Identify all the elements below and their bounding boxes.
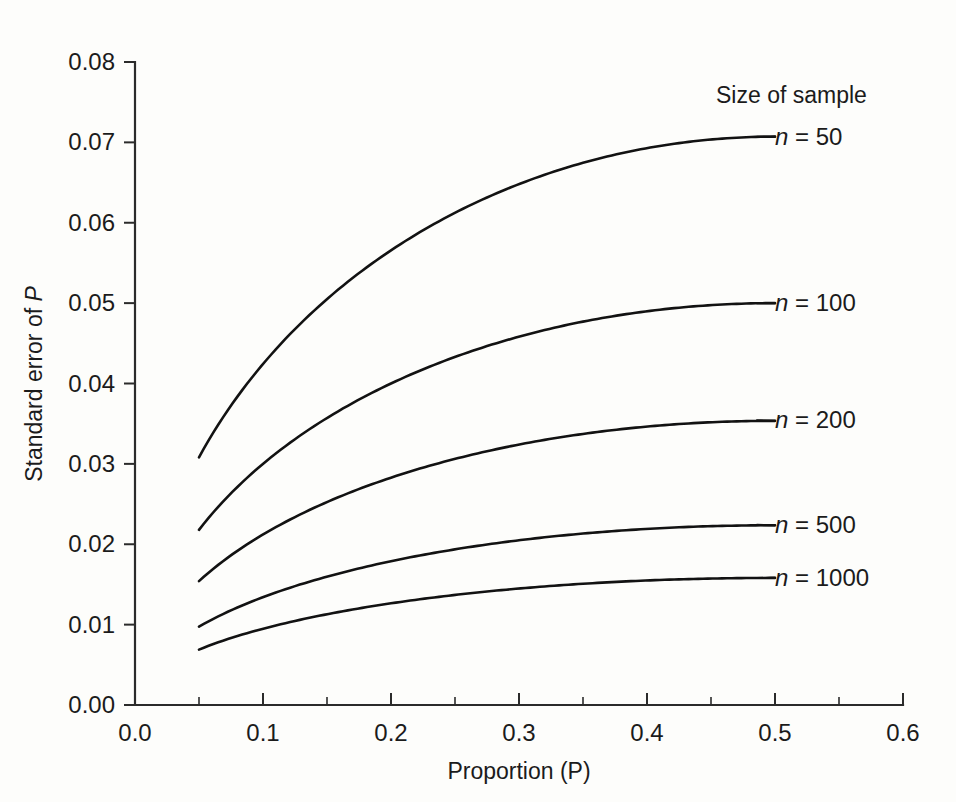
chart-page: 0.000.010.020.030.040.050.060.070.08 0.0… [0,0,956,802]
y-axis-title-symbol: P [21,286,47,302]
x-tick-label: 0.3 [502,719,535,746]
legend-title: Size of sample [716,82,867,108]
x-axis-title: Proportion (P) [447,758,590,784]
x-tick-label: 0.4 [630,719,663,746]
series-label-value: = 200 [788,406,855,433]
y-tick-label: 0.00 [68,691,115,718]
series-label: n = 100 [775,289,856,316]
series-label: n = 200 [775,406,856,433]
x-tick-label: 0.0 [118,719,151,746]
x-tick-label: 0.1 [246,719,279,746]
x-tick-marks [135,693,903,705]
standard-error-chart: 0.000.010.020.030.040.050.060.070.08 0.0… [0,0,956,802]
series-label-symbol: n [775,123,788,150]
x-tick-label: 0.2 [374,719,407,746]
y-tick-label: 0.04 [68,370,115,397]
series-label-value: = 1000 [788,564,869,591]
y-tick-label: 0.08 [68,48,115,75]
y-axis-title: Standard error of P [21,286,47,482]
series-label-value: = 500 [788,511,855,538]
series-label-symbol: n [775,511,788,538]
y-tick-label: 0.05 [68,289,115,316]
series-curve [199,525,775,626]
series-leader-lines [757,137,775,578]
series-label: n = 1000 [775,564,869,591]
y-tick-marks [124,62,135,705]
series-labels: n = 50n = 100n = 200n = 500n = 1000 [775,123,869,591]
series-label-symbol: n [775,406,788,433]
axes [135,62,903,705]
y-tick-label: 0.01 [68,611,115,638]
y-tick-label: 0.02 [68,530,115,557]
series-label-value: = 100 [788,289,855,316]
series-label: n = 500 [775,511,856,538]
series-curves [199,137,775,650]
y-tick-label: 0.07 [68,128,115,155]
y-tick-labels: 0.000.010.020.030.040.050.060.070.08 [68,48,115,718]
x-tick-labels: 0.00.10.20.30.40.50.6 [118,719,919,746]
series-label: n = 50 [775,123,842,150]
y-tick-label: 0.06 [68,209,115,236]
series-label-symbol: n [775,564,788,591]
y-axis-title-prefix: Standard error of [21,302,47,482]
y-tick-label: 0.03 [68,450,115,477]
series-label-value: = 50 [788,123,842,150]
x-tick-label: 0.6 [886,719,919,746]
series-label-symbol: n [775,289,788,316]
x-tick-label: 0.5 [758,719,791,746]
series-curve [199,137,775,458]
